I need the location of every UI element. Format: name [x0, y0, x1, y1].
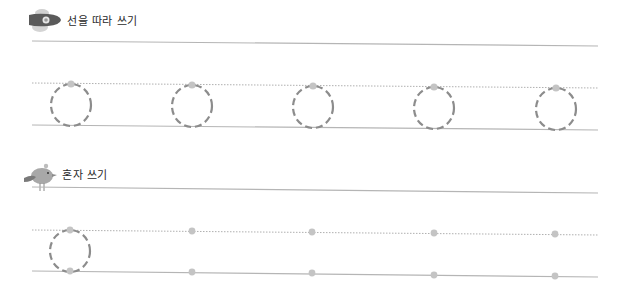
trace-top-line	[32, 41, 598, 46]
start-dot	[430, 83, 437, 90]
start-dot	[67, 227, 74, 234]
start-dot	[67, 80, 74, 87]
end-dot	[431, 272, 438, 279]
start-dot	[309, 82, 316, 89]
trace-circle[interactable]	[50, 230, 90, 272]
start-dot	[309, 229, 316, 236]
trace-circle[interactable]	[172, 85, 212, 127]
start-dot	[552, 84, 559, 91]
trace-circle[interactable]	[293, 86, 333, 128]
trace-circle[interactable]	[414, 87, 454, 129]
end-dot	[189, 269, 196, 276]
self-top-line	[32, 187, 598, 193]
trace-circle[interactable]	[51, 84, 91, 126]
writing-sheet	[0, 0, 623, 302]
trace-base-line	[32, 125, 598, 130]
trace-circle[interactable]	[536, 88, 576, 130]
start-dot	[431, 230, 438, 237]
start-dot	[552, 231, 559, 238]
end-dot	[67, 268, 74, 275]
start-dot	[189, 228, 196, 235]
start-dot	[188, 81, 195, 88]
end-dot	[552, 273, 559, 280]
end-dot	[309, 270, 316, 277]
